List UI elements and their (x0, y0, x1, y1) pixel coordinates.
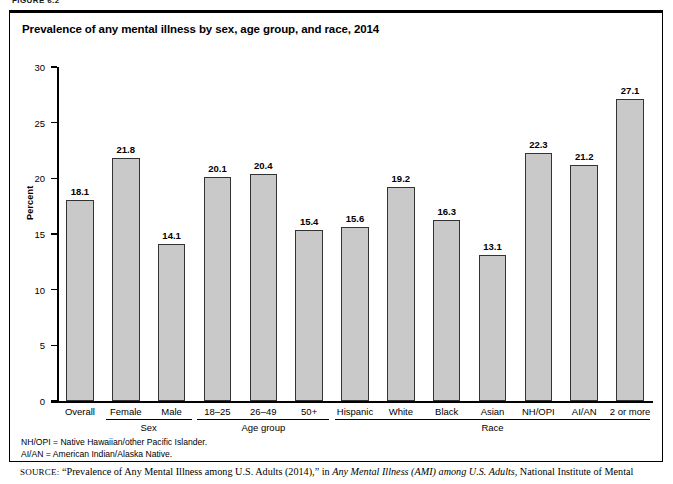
bar-slot: 22.3 (525, 67, 553, 401)
source-prefix: SOURCE: (20, 467, 59, 477)
bar[interactable] (204, 177, 232, 401)
source-note: SOURCE: “Prevalence of Any Mental Illnes… (20, 466, 670, 477)
x-tick-label: 50+ (286, 406, 332, 417)
bar-slot: 21.2 (570, 67, 598, 401)
bar-value-label: 21.2 (575, 151, 594, 162)
y-tick-label: 10 (9, 284, 47, 295)
bar-value-label: 15.6 (346, 213, 365, 224)
y-tick-label-wrap: 0 (9, 401, 47, 412)
bar[interactable] (570, 165, 598, 401)
x-tick-label: Asian (470, 406, 516, 417)
bar[interactable] (250, 174, 278, 401)
bar-slot: 18.1 (66, 67, 94, 401)
bar-value-label: 16.3 (437, 206, 456, 217)
source-text-2: , National Institute of Mental (515, 466, 634, 477)
x-tick-label: Male (149, 406, 195, 417)
bar[interactable] (387, 187, 415, 401)
bar-slot: 14.1 (158, 67, 186, 401)
bar-value-label: 27.1 (621, 85, 640, 96)
plot-area: Percent 051015202530 18.121.814.120.120.… (9, 10, 663, 462)
bar-value-label: 14.1 (162, 230, 181, 241)
x-tick-label: Overall (57, 406, 103, 417)
bar-series: 18.121.814.120.120.415.415.619.216.313.1… (57, 67, 653, 401)
footnotes: NH/OPI = Native Hawaiian/other Pacific I… (21, 437, 207, 460)
bar-slot: 27.1 (616, 67, 644, 401)
footnote-nhopi: NH/OPI = Native Hawaiian/other Pacific I… (21, 437, 207, 449)
bar-value-label: 20.1 (208, 163, 227, 174)
footnote-aian: AI/AN = American Indian/Alaska Native. (21, 449, 207, 461)
bar-slot: 15.6 (341, 67, 369, 401)
x-axis-line (51, 401, 653, 403)
x-tick-label: Black (424, 406, 470, 417)
y-tick-label-wrap: 15 (9, 234, 47, 245)
x-tick-label: 26–49 (240, 406, 286, 417)
y-axis-label: Percent (25, 186, 35, 220)
bar[interactable] (433, 220, 461, 401)
y-tick-label: 30 (9, 62, 47, 73)
x-tick-label: 18–25 (195, 406, 241, 417)
bar-value-label: 15.4 (300, 216, 319, 227)
bar[interactable] (479, 255, 507, 401)
y-tick-label: 5 (9, 340, 47, 351)
bar-value-label: 18.1 (71, 186, 90, 197)
x-tick-label: AI/AN (561, 406, 607, 417)
x-tick-label: NH/OPI (515, 406, 561, 417)
bar-value-label: 20.4 (254, 160, 273, 171)
source-text-1: “Prevalence of Any Mental Illness among … (59, 466, 332, 477)
bar-slot: 20.1 (204, 67, 232, 401)
y-tick-label: 15 (9, 229, 47, 240)
x-tick-label: Female (103, 406, 149, 417)
y-tick-label-wrap: 30 (9, 67, 47, 78)
group-bracket-line (106, 419, 192, 420)
bar[interactable] (525, 153, 553, 401)
y-tick-label-wrap: 10 (9, 290, 47, 301)
group-label: Race (335, 422, 650, 433)
bar-value-label: 21.8 (117, 144, 136, 155)
source-title-italic: Any Mental Illness (AMI) among U.S. Adul… (332, 466, 515, 477)
y-tick-label-wrap: 25 (9, 123, 47, 134)
bar[interactable] (112, 158, 140, 401)
x-tick-label: White (378, 406, 424, 417)
y-tick-label-wrap: 5 (9, 345, 47, 356)
y-tick-label: 0 (9, 396, 47, 407)
bar-slot: 13.1 (479, 67, 507, 401)
group-label: Age group (197, 422, 329, 433)
x-tick-label: 2 or more (607, 406, 653, 417)
y-tick-label: 20 (9, 173, 47, 184)
bar[interactable] (158, 244, 186, 401)
group-label: Sex (106, 422, 192, 433)
x-tick-label: Hispanic (332, 406, 378, 417)
bar[interactable] (295, 230, 323, 401)
bar-value-label: 22.3 (529, 139, 548, 150)
bar[interactable] (341, 227, 369, 401)
group-bracket-line (197, 419, 329, 420)
bar-slot: 21.8 (112, 67, 140, 401)
bar-slot: 16.3 (433, 67, 461, 401)
y-tick-label-wrap: 20 (9, 178, 47, 189)
y-tick-label: 25 (9, 117, 47, 128)
figure-number-label: FIGURE 6.2 (12, 0, 60, 6)
bar-value-label: 13.1 (483, 241, 502, 252)
group-bracket-line (335, 419, 650, 420)
bar-slot: 20.4 (250, 67, 278, 401)
bar-slot: 19.2 (387, 67, 415, 401)
bar[interactable] (66, 200, 94, 402)
bar-slot: 15.4 (295, 67, 323, 401)
bar-value-label: 19.2 (392, 173, 411, 184)
bar[interactable] (616, 99, 644, 401)
